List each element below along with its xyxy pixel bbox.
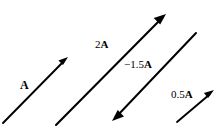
- vector-2a-label-symbol: A: [101, 38, 109, 50]
- vector-a-label: A: [20, 79, 29, 91]
- vector-05a-label-symbol: A: [185, 88, 193, 100]
- vector-neg15a-label-symbol: A: [144, 58, 152, 70]
- vector-2a-shaft: [56, 20, 161, 126]
- vector-a-label-symbol: A: [20, 78, 29, 92]
- vector-diagram: A 2A −1.5A 0.5A: [0, 0, 223, 135]
- vector-2a-label: 2A: [95, 39, 108, 50]
- vector-neg15a-label-magnitude: −1.5: [124, 58, 144, 70]
- vector-05a-label: 0.5A: [171, 89, 193, 100]
- vector-canvas: [0, 0, 223, 135]
- vector-neg15a-group: [112, 33, 196, 121]
- vector-05a-label-magnitude: 0.5: [171, 88, 185, 100]
- vector-a-shaft: [3, 62, 64, 124]
- vector-2a-arrowhead: [154, 14, 166, 24]
- vector-a-group: [3, 57, 68, 123]
- vector-neg15a-label: −1.5A: [124, 59, 152, 70]
- vector-neg15a-shaft: [118, 33, 197, 116]
